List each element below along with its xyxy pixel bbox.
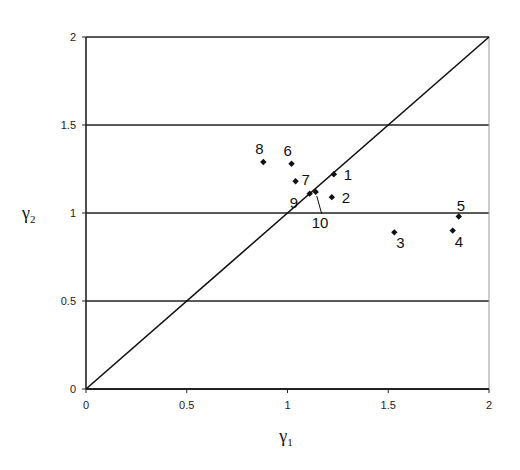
x-tick-label: 1.5 xyxy=(381,399,396,411)
point-label: 2 xyxy=(342,189,350,206)
y-tick-label: 1 xyxy=(70,207,76,219)
point-label: 6 xyxy=(284,142,292,159)
y-tick-label: 2 xyxy=(70,31,76,43)
x-tick-label: 2 xyxy=(486,399,492,411)
point-label: 10 xyxy=(312,214,329,231)
y-tick-label: 1.5 xyxy=(61,119,76,131)
y-tick-label: 0.5 xyxy=(61,295,76,307)
x-tick-label: 0.5 xyxy=(179,399,194,411)
point-label: 9 xyxy=(290,194,298,211)
chart-background xyxy=(0,0,520,470)
x-tick-label: 1 xyxy=(284,399,290,411)
y-tick-label: 0 xyxy=(70,383,76,395)
x-tick-label: 0 xyxy=(83,399,89,411)
point-label: 4 xyxy=(455,233,463,250)
point-label: 5 xyxy=(457,197,465,214)
scatter-chart: 00.511.52 00.511.52 12345678910 γ1 γ2 xyxy=(0,0,520,470)
point-label: 3 xyxy=(396,234,404,251)
point-label: 1 xyxy=(344,166,352,183)
point-label: 8 xyxy=(255,140,263,157)
point-label: 7 xyxy=(302,171,310,188)
